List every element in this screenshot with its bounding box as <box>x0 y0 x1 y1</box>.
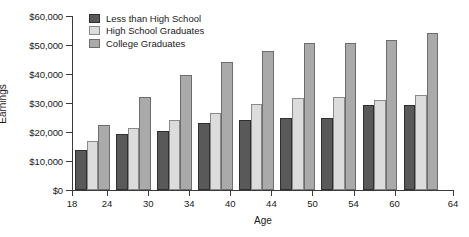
x-axis-tick-label: 60 <box>389 198 400 209</box>
chart-legend: Less than High SchoolHigh School Graduat… <box>89 12 204 50</box>
x-axis-tick <box>230 191 231 196</box>
earnings-by-age-bar-chart: Earnings Age $0$10,000$20,000$30,000$40,… <box>0 0 469 237</box>
y-axis-tick-label: $50,000 <box>29 40 63 51</box>
y-axis-tick <box>66 74 72 75</box>
x-axis-tick-label: 30 <box>143 198 154 209</box>
y-axis-tick <box>66 103 72 104</box>
y-axis-tick-label: $30,000 <box>29 98 63 109</box>
y-axis-line <box>72 16 73 191</box>
bar <box>221 62 233 190</box>
bar <box>210 113 222 190</box>
bar <box>374 100 386 190</box>
y-axis-tick <box>66 132 72 133</box>
x-axis-tick <box>189 191 190 196</box>
x-axis-tick-label: 24 <box>102 198 113 209</box>
bar <box>128 128 140 190</box>
bar <box>251 104 263 190</box>
bar <box>180 75 192 190</box>
x-axis-tick <box>271 191 272 196</box>
bar <box>363 105 375 190</box>
bar <box>404 105 416 190</box>
y-axis-tick-label: $10,000 <box>29 156 63 167</box>
legend-swatch-icon <box>89 14 100 23</box>
bar <box>345 43 357 190</box>
x-axis-tick-label: 64 <box>448 198 459 209</box>
y-axis-tick <box>66 16 72 17</box>
bar <box>116 134 128 190</box>
legend-item-label: College Graduates <box>106 38 185 49</box>
x-axis-tick-label: 44 <box>266 198 277 209</box>
bar <box>321 118 333 190</box>
bar <box>239 120 251 190</box>
y-axis-title: Earnings <box>0 84 8 123</box>
x-axis-tick <box>107 191 108 196</box>
bar <box>280 118 292 190</box>
bar <box>262 51 274 190</box>
x-axis-tick <box>354 191 355 196</box>
x-axis-title: Age <box>72 215 454 226</box>
y-axis-title-label: Earnings <box>0 84 8 123</box>
legend-item: Less than High School <box>89 12 204 25</box>
legend-swatch-icon <box>89 39 100 48</box>
x-axis-tick <box>148 191 149 196</box>
x-axis-tick-label: 54 <box>348 198 359 209</box>
y-axis-tick <box>66 161 72 162</box>
legend-item: High School Graduates <box>89 25 204 38</box>
legend-swatch-icon <box>89 26 100 35</box>
bar <box>169 120 181 190</box>
bar <box>304 43 316 190</box>
legend-item-label: High School Graduates <box>106 25 204 36</box>
x-axis-title-label: Age <box>254 215 272 226</box>
x-axis-tick-label: 18 <box>67 198 78 209</box>
bar <box>292 98 304 190</box>
y-axis-tick-label: $0 <box>53 185 63 196</box>
bar <box>139 97 151 190</box>
bar <box>415 95 427 190</box>
x-axis-tick <box>453 191 454 196</box>
x-axis-tick-label: 50 <box>307 198 318 209</box>
x-axis-tick-label: 34 <box>184 198 195 209</box>
x-axis-tick <box>395 191 396 196</box>
x-axis-tick <box>72 191 73 196</box>
bar <box>427 33 439 190</box>
x-axis-tick <box>312 191 313 196</box>
bar <box>157 131 169 190</box>
bar <box>333 97 345 190</box>
y-axis-tick-label: $60,000 <box>29 11 63 22</box>
bar <box>198 123 210 190</box>
x-axis-tick-label: 40 <box>225 198 236 209</box>
y-axis-tick-label: $40,000 <box>29 69 63 80</box>
y-axis-tick-label: $20,000 <box>29 127 63 138</box>
bar <box>386 40 398 190</box>
bar <box>87 141 99 190</box>
legend-item: College Graduates <box>89 37 204 50</box>
bar <box>98 125 110 190</box>
legend-item-label: Less than High School <box>106 13 201 24</box>
bar <box>75 150 87 190</box>
y-axis-tick <box>66 45 72 46</box>
x-axis-line <box>72 190 454 191</box>
